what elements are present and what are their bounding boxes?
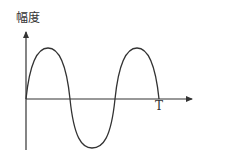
sine-wave-curve <box>26 48 159 148</box>
y-axis-label: 幅度 <box>16 8 40 25</box>
x-axis-label-t: T <box>155 99 163 113</box>
